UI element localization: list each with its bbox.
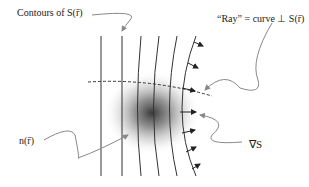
diagram-canvas — [0, 0, 309, 187]
gradient-label: ∇S — [249, 138, 262, 151]
gradient-arrow — [194, 42, 203, 46]
gradient-arrow — [188, 63, 198, 68]
index-label: n(r̄) — [19, 135, 34, 146]
ray-label: “Ray” = curve ⊥ S(r̄) — [217, 13, 304, 24]
ray-pointer — [205, 23, 272, 90]
contours-pointer — [92, 13, 132, 31]
gradient-arrow — [192, 164, 200, 169]
contours-label: Contours of S(r̄) — [17, 7, 83, 18]
gradient-pointer — [200, 115, 242, 143]
